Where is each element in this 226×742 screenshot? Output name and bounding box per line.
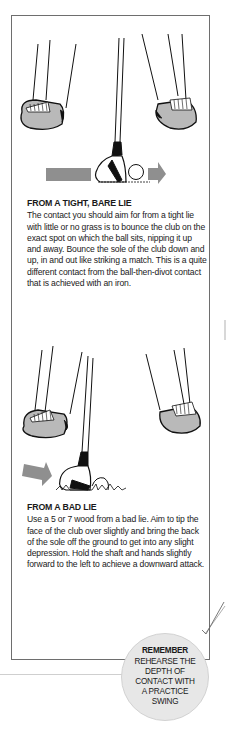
remember-callout: REMEMBER REHEARSE THE DEPTH OF CONTACT W… (121, 633, 209, 721)
tight-lie-illustration (0, 0, 226, 195)
callout-line: REHEARSE THE (134, 657, 195, 667)
callout-line: CONTACT WITH (135, 677, 195, 687)
page-edge-mark (224, 320, 226, 340)
left-foot-icon (23, 346, 82, 438)
tight-lie-heading: FROM A TIGHT, BARE LIE (27, 198, 207, 209)
left-foot-icon (21, 40, 76, 129)
arrow-right-icon (148, 162, 166, 184)
bad-lie-heading: FROM A BAD LIE (27, 502, 207, 513)
callout-line: DEPTH OF (145, 667, 185, 677)
arrow-left-bar (46, 168, 91, 181)
callout-line: A PRACTICE (142, 687, 189, 697)
bad-lie-body: Use a 5 or 7 wood from a bad lie. Aim to… (27, 514, 207, 570)
right-foot-icon (142, 34, 196, 129)
callout-line: SWING (152, 697, 179, 707)
ball-icon (92, 478, 109, 490)
ball-icon (129, 165, 144, 180)
tight-lie-body: The contact you should aim for from a ti… (27, 210, 207, 289)
bad-lie-caption: FROM A BAD LIE Use a 5 or 7 wood from a … (27, 502, 207, 571)
club-icon (96, 38, 127, 182)
right-foot-icon (146, 348, 200, 433)
check-mark-icon (200, 600, 226, 640)
bad-lie-illustration (0, 300, 226, 500)
arrow-right-icon (22, 462, 52, 486)
divider-rule (0, 674, 130, 675)
callout-title: REMEMBER (142, 646, 188, 656)
tight-lie-caption: FROM A TIGHT, BARE LIE The contact you s… (27, 198, 207, 289)
